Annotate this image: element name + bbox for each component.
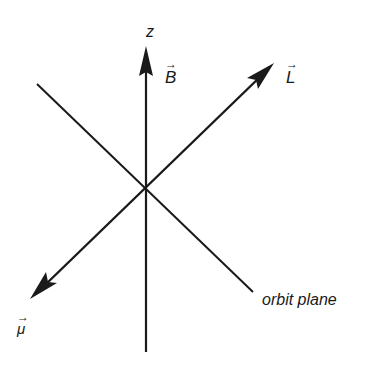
b-symbol: B bbox=[165, 69, 176, 86]
mu-symbol: μ bbox=[17, 321, 25, 336]
mu-vector-label: → μ bbox=[17, 311, 33, 341]
z-axis-label: z bbox=[146, 24, 154, 40]
orbit-plane-label: orbit plane bbox=[262, 292, 337, 308]
l-mu-axis-line bbox=[44, 75, 262, 286]
z-axis-arrowhead-icon bbox=[139, 46, 153, 76]
b-vector-label: → B bbox=[165, 58, 181, 88]
l-vector-label: → L bbox=[286, 58, 302, 88]
l-symbol: L bbox=[286, 69, 295, 86]
orbital-angular-momentum-diagram bbox=[0, 0, 392, 366]
